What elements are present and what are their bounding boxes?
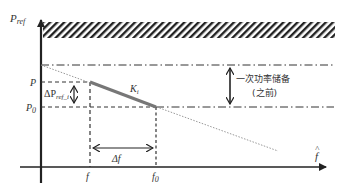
x-axis-label: f <box>315 150 320 162</box>
delta-p-label: ΔPref_i <box>44 88 69 101</box>
delta-f-label: Δf <box>111 153 122 164</box>
slope-label: Ki <box>129 83 139 96</box>
f0-label: f0 <box>152 171 159 184</box>
p0-label: P0 <box>25 102 36 115</box>
hatched-limit-band <box>43 22 335 38</box>
droop-segment <box>90 82 156 107</box>
reserve-label-line1: 一次功率储备 <box>236 73 290 84</box>
reserve-label-line2: (之前) <box>252 87 277 98</box>
p-label: P <box>29 77 36 88</box>
y-axis-label: Pref <box>9 12 27 26</box>
f-label: f <box>86 171 90 182</box>
droop-diagram: Pref P P0 ΔPref_i Ki Δf f f0 ^ f 一次功率储备 … <box>0 0 346 195</box>
